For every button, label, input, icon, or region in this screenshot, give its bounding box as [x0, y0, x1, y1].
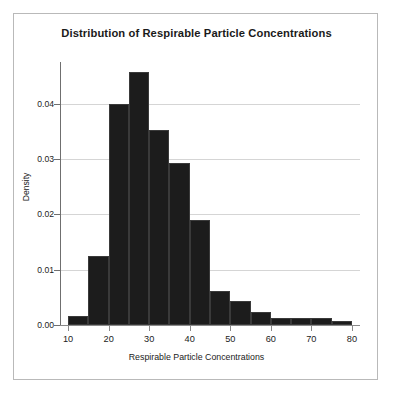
gridline	[60, 104, 360, 105]
x-tick-mark	[230, 326, 231, 331]
gridline	[60, 214, 360, 215]
plot-area: 0.000.010.020.030.04 1020304050607080	[55, 60, 360, 326]
y-tick-mark	[54, 104, 60, 105]
histogram-bar	[291, 318, 311, 325]
y-tick-label: 0.01	[14, 265, 54, 275]
gridline	[60, 159, 360, 160]
x-axis-title: Respirable Particle Concentrations	[0, 352, 393, 362]
x-tick-label: 10	[53, 334, 83, 344]
x-tick-mark	[352, 326, 353, 331]
x-tick-label: 80	[337, 334, 367, 344]
x-tick-mark	[311, 326, 312, 331]
x-tick-mark	[109, 326, 110, 331]
y-tick-label: 0.02	[14, 209, 54, 219]
histogram-bar	[271, 318, 291, 325]
y-tick-label: 0.04	[14, 99, 54, 109]
x-tick-mark	[149, 326, 150, 331]
histogram-bar	[230, 301, 250, 325]
y-tick-mark	[54, 214, 60, 215]
histogram-bar	[68, 316, 88, 325]
y-axis-title: Density	[21, 157, 31, 217]
x-tick-mark	[271, 326, 272, 331]
histogram-bar	[109, 104, 129, 325]
histogram-bar	[210, 291, 230, 325]
x-tick-label: 40	[175, 334, 205, 344]
x-tick-label: 70	[296, 334, 326, 344]
histogram-bar	[251, 312, 271, 325]
y-axis-line	[60, 62, 61, 326]
histogram-bar	[88, 256, 108, 325]
x-tick-label: 60	[256, 334, 286, 344]
y-tick-label: 0.03	[14, 154, 54, 164]
histogram-bar	[190, 220, 210, 325]
histogram-chart: Distribution of Respirable Particle Conc…	[0, 0, 393, 393]
histogram-bar	[149, 130, 169, 325]
y-tick-mark	[54, 159, 60, 160]
y-tick-mark	[54, 325, 60, 326]
histogram-bar	[169, 163, 189, 325]
chart-title: Distribution of Respirable Particle Conc…	[0, 27, 393, 39]
x-tick-mark	[190, 326, 191, 331]
y-tick-mark	[54, 270, 60, 271]
x-tick-label: 20	[94, 334, 124, 344]
x-tick-mark	[68, 326, 69, 331]
histogram-bar	[129, 72, 149, 325]
x-tick-label: 50	[215, 334, 245, 344]
x-axis-line	[60, 325, 360, 326]
y-tick-label: 0.00	[14, 320, 54, 330]
histogram-bar	[311, 318, 331, 325]
x-tick-label: 30	[134, 334, 164, 344]
